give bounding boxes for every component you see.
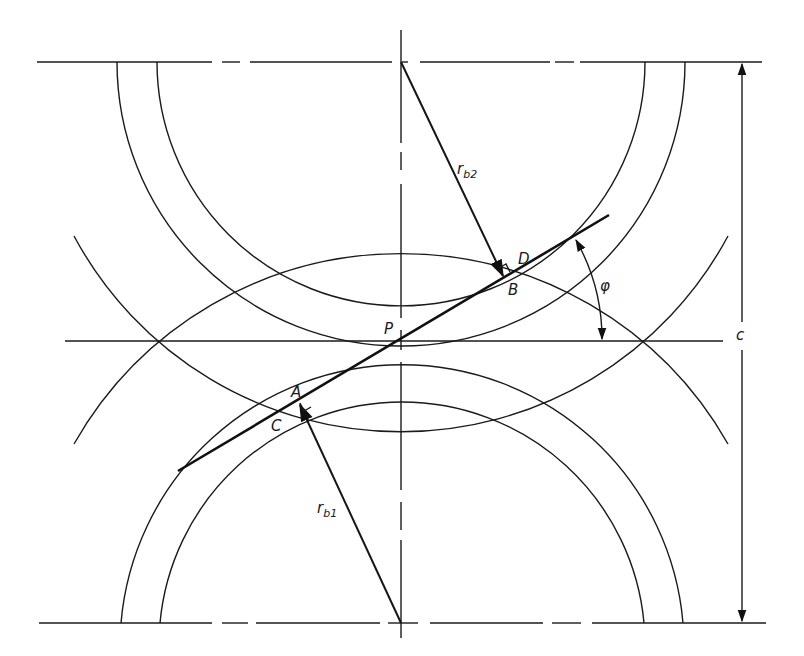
bottom-gear-pitch-circle — [121, 365, 683, 623]
label-rb1-sub: b1 — [323, 507, 337, 520]
pressure-angle-arc — [576, 240, 602, 339]
label-p: P — [384, 320, 394, 338]
label-rb1: rb1 — [317, 499, 337, 520]
label-c: C — [271, 417, 282, 435]
label-rb2: rb2 — [457, 160, 477, 181]
gear-mesh-diagram: P A C B D φ c rb2 rb1 — [0, 0, 804, 656]
base-radius-2-line — [401, 62, 503, 276]
label-center-distance: c — [736, 326, 745, 344]
label-phi: φ — [600, 277, 610, 295]
label-a: A — [290, 383, 301, 401]
base-radius-1-line — [300, 405, 401, 623]
label-b: B — [508, 281, 518, 299]
label-d: D — [518, 250, 530, 268]
label-rb2-sub: b2 — [463, 168, 477, 181]
bottom-gear-base-circle — [160, 402, 644, 623]
